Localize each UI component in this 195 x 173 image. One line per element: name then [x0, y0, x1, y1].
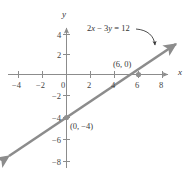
coordinate-plane-figure: x y −4 −2 0 2 4 6 8 4 2 −2 −4 −6 −8 (6, …	[0, 0, 195, 173]
x-tick-label-8: 8	[159, 81, 163, 90]
point-x-intercept	[136, 72, 141, 77]
x-tick-label-minus4: −4	[12, 81, 21, 90]
point-label-y-intercept: (0, −4)	[70, 122, 93, 131]
y-tick-label-minus4: −4	[52, 114, 61, 123]
equation-operator: −	[95, 23, 104, 33]
y-tick-label-minus8: −8	[52, 158, 61, 167]
x-tick-label-zero: 0	[61, 81, 65, 90]
x-tick-label-6: 6	[135, 81, 139, 90]
y-tick-label-minus6: −6	[52, 136, 61, 145]
x-tick-label-4: 4	[111, 81, 115, 90]
y-tick-label-minus2: −2	[52, 92, 61, 101]
point-y-intercept	[64, 115, 69, 120]
equation-rhs: = 12	[112, 23, 130, 33]
y-tick-label-4: 4	[57, 31, 61, 40]
equation-label: 2x − 3y = 12	[87, 24, 130, 33]
y-axis	[63, 28, 70, 168]
line-2x-minus-3y-equals-12	[9, 44, 176, 156]
plotted-line	[9, 44, 176, 156]
callout-arrow	[136, 29, 155, 45]
curved-arrow-icon	[136, 29, 155, 45]
x-axis	[8, 71, 168, 78]
point-label-x-intercept: (6, 0)	[113, 60, 131, 69]
y-axis-label: y	[62, 10, 66, 19]
x-tick-label-minus2: −2	[36, 81, 45, 90]
y-tick-label-2: 2	[57, 51, 61, 60]
x-axis-label: x	[178, 68, 182, 77]
x-tick-label-2: 2	[87, 81, 91, 90]
